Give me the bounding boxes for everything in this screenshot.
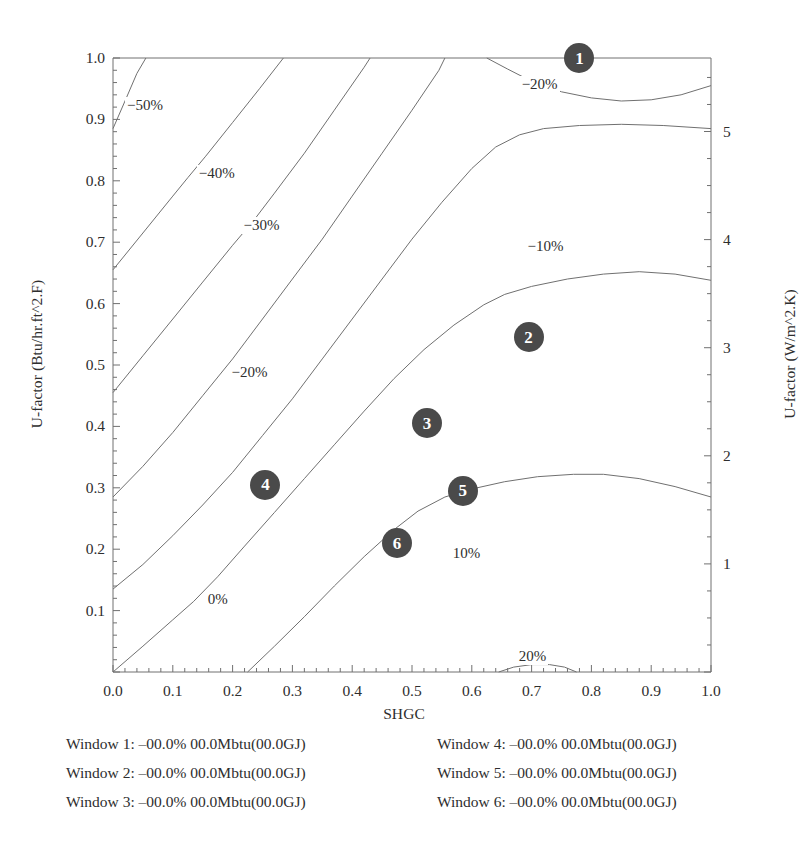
- contour-label: −40%: [197, 165, 237, 182]
- y-tick-label-left: 1.0: [59, 49, 105, 67]
- x-tick-label: 0.4: [327, 682, 377, 700]
- x-tick-label: 0.0: [88, 682, 138, 700]
- contour-label: −10%: [526, 238, 566, 255]
- x-tick-label: 0.7: [507, 682, 557, 700]
- legend-item: Window 4: –00.0% 00.0Mbtu(00.0GJ): [437, 735, 808, 753]
- y-tick-label-left: 0.5: [59, 356, 105, 374]
- contour-label: −20%: [520, 76, 560, 93]
- y-tick-label-right: 4: [723, 231, 753, 249]
- x-axis-title: SHGC: [0, 705, 808, 723]
- y-tick-label-left: 0.9: [59, 110, 105, 128]
- legend-item: Window 5: –00.0% 00.0Mbtu(00.0GJ): [437, 764, 808, 782]
- y-tick-label-left: 0.7: [59, 233, 105, 251]
- contour-label: 0%: [206, 591, 230, 608]
- y-tick-label-right: 1: [723, 555, 753, 573]
- legend-item: Window 3: –00.0% 00.0Mbtu(00.0GJ): [66, 793, 437, 811]
- y-axis-title-right: U-factor (W/m^2.K): [781, 224, 799, 484]
- x-tick-label: 1.0: [686, 682, 736, 700]
- contour-chart: U-factor (Btu/hr.ft^2.F) U-factor (W/m^2…: [0, 0, 808, 844]
- contour-label: −20%: [230, 364, 270, 381]
- y-tick-label-left: 0.4: [59, 417, 105, 435]
- legend-list: Window 1: –00.0% 00.0Mbtu(00.0GJ)Window …: [0, 735, 808, 811]
- y-tick-label-right: 5: [723, 123, 753, 141]
- contour-line: [248, 474, 711, 672]
- contour-label: 20%: [517, 648, 549, 665]
- x-tick-label: 0.1: [148, 682, 198, 700]
- legend-item: Window 1: –00.0% 00.0Mbtu(00.0GJ): [66, 735, 437, 753]
- y-axis-title-left: U-factor (Btu/hr.ft^2.F): [28, 224, 46, 484]
- contour-label: 10%: [451, 545, 483, 562]
- y-tick-label-left: 0.2: [59, 540, 105, 558]
- y-tick-label-left: 0.1: [59, 602, 105, 620]
- contour-line: [113, 272, 711, 672]
- x-tick-label: 0.9: [626, 682, 676, 700]
- legend-item: Window 6: –00.0% 00.0Mbtu(00.0GJ): [437, 793, 808, 811]
- contour-label: −30%: [242, 217, 282, 234]
- y-tick-label-left: 0.3: [59, 479, 105, 497]
- y-tick-label-right: 3: [723, 339, 753, 357]
- contour-line: [499, 665, 577, 672]
- contour-lines: [113, 58, 711, 672]
- window-marker-6[interactable]: 6: [382, 528, 412, 558]
- y-tick-label-left: 0.6: [59, 295, 105, 313]
- x-tick-label: 0.2: [208, 682, 258, 700]
- contour-line: [113, 58, 146, 129]
- y-tick-label-right: 2: [723, 447, 753, 465]
- x-tick-label: 0.5: [387, 682, 437, 700]
- axes-frame: [113, 58, 711, 672]
- legend-item: Window 2: –00.0% 00.0Mbtu(00.0GJ): [66, 764, 437, 782]
- x-tick-label: 0.3: [267, 682, 317, 700]
- contour-line: [113, 124, 711, 589]
- contour-label: −50%: [125, 97, 165, 114]
- y-tick-label-left: 0.8: [59, 172, 105, 190]
- x-tick-label: 0.6: [447, 682, 497, 700]
- window-marker-5[interactable]: 5: [448, 476, 478, 506]
- x-tick-label: 0.8: [566, 682, 616, 700]
- window-marker-2[interactable]: 2: [514, 322, 544, 352]
- contour-line: [113, 58, 445, 497]
